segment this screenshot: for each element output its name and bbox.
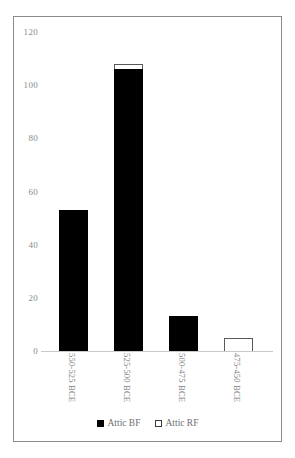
- bar-segment-attic-bf[interactable]: [114, 69, 143, 351]
- x-tick-475-450-bce: 475-450 BCE: [232, 353, 242, 411]
- y-tick-60: 60: [28, 187, 38, 197]
- y-tick-80: 80: [28, 133, 38, 143]
- y-tick-0: 0: [33, 346, 38, 356]
- x-axis: 550-525 BCE 525-500 BCE 500-475 BCE 475-…: [41, 353, 273, 411]
- y-tick-120: 120: [24, 27, 38, 37]
- x-tick-500-475-bce: 500-475 BCE: [177, 353, 187, 411]
- legend-label-attic-bf: Attic BF: [108, 418, 141, 428]
- bar-group-475-450-bce[interactable]: [224, 338, 253, 351]
- chart-figure: 120 100 80 60 40 20 0 550-525 BCE 525-50…: [0, 0, 295, 458]
- bar-group-525-500-bce[interactable]: [114, 64, 143, 351]
- filled-square-icon: [97, 420, 104, 427]
- y-axis: 120 100 80 60 40 20 0: [16, 32, 38, 351]
- legend-item-attic-rf[interactable]: Attic RF: [155, 418, 199, 428]
- x-axis-baseline: [41, 351, 273, 352]
- open-square-icon: [155, 420, 162, 427]
- bar-group-500-475-bce[interactable]: [169, 316, 198, 351]
- bar-segment-attic-bf[interactable]: [169, 316, 198, 351]
- legend-item-attic-bf[interactable]: Attic BF: [97, 418, 141, 428]
- legend-label-attic-rf: Attic RF: [166, 418, 199, 428]
- bar-segment-attic-rf[interactable]: [224, 338, 253, 351]
- plot-area: [41, 32, 273, 351]
- x-tick-550-525-bce: 550-525 BCE: [67, 353, 77, 411]
- bar-segment-attic-bf[interactable]: [59, 210, 88, 351]
- chart-legend: Attic BF Attic RF: [13, 418, 282, 428]
- y-tick-100: 100: [24, 80, 38, 90]
- y-tick-40: 40: [28, 240, 38, 250]
- y-tick-20: 20: [28, 293, 38, 303]
- x-tick-525-500-bce: 525-500 BCE: [122, 353, 132, 411]
- bar-group-550-525-bce[interactable]: [59, 210, 88, 351]
